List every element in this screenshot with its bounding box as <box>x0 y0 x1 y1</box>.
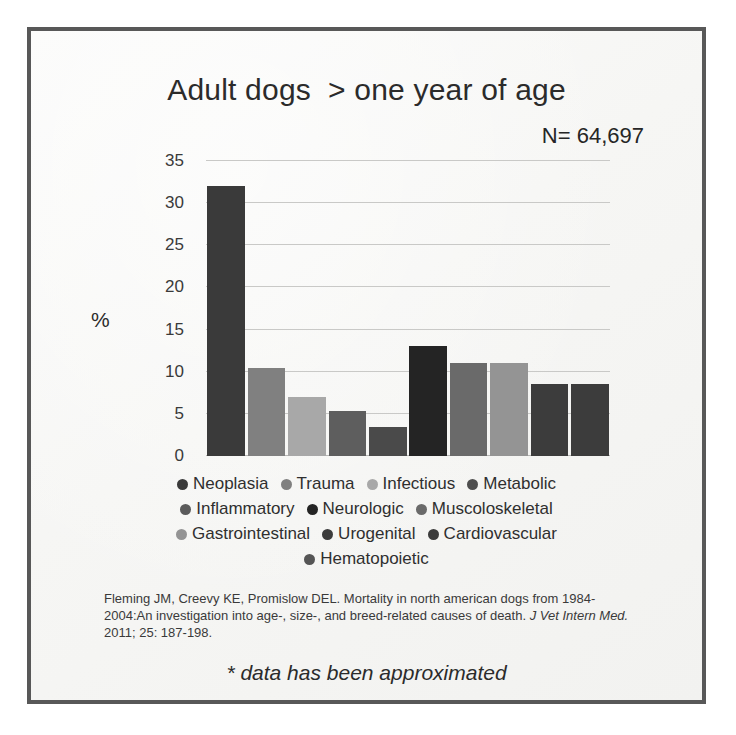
y-axis-title: % <box>91 308 110 332</box>
legend-swatch-icon <box>180 504 191 515</box>
bar-infectious <box>288 397 326 456</box>
legend-label: Neoplasia <box>193 474 269 493</box>
slide-canvas: Adult dogs > one year of age N= 64,697 %… <box>0 0 736 735</box>
legend-label: Trauma <box>297 474 355 493</box>
legend-swatch-icon <box>281 479 292 490</box>
bar-muscoloskeletal <box>450 363 488 456</box>
chart-title: Adult dogs > one year of age <box>31 73 702 107</box>
bar-series <box>206 161 610 456</box>
legend-row-2: InflammatoryNeurologicMuscoloskeletal <box>31 496 702 521</box>
chart-container: Adult dogs > one year of age N= 64,697 %… <box>31 31 702 700</box>
legend-swatch-icon <box>428 529 439 540</box>
y-tick-label-5: 5 <box>175 404 184 424</box>
legend-swatch-icon <box>304 554 315 565</box>
legend-swatch-icon <box>307 504 318 515</box>
y-tick-label-10: 10 <box>165 362 184 382</box>
legend-label: Gastrointestinal <box>192 524 310 543</box>
bar-gastrointestinal <box>490 363 528 456</box>
legend-label: Neurologic <box>323 499 404 518</box>
y-tick-label-35: 35 <box>165 151 184 171</box>
legend-label: Metabolic <box>483 474 556 493</box>
legend-swatch-icon <box>322 529 333 540</box>
citation-line-3-tail: 2011; 25: 187-198. <box>104 625 212 640</box>
legend-row-3: GastrointestinalUrogenitalCardiovascular <box>31 521 702 546</box>
legend-label: Infectious <box>383 474 456 493</box>
citation-text: Fleming JM, Creevy KE, Promislow DEL. Mo… <box>104 590 639 641</box>
bar-urogenital <box>531 384 569 456</box>
bar-trauma <box>248 368 286 456</box>
legend-swatch-icon <box>467 479 478 490</box>
legend-item-muscoloskeletal[interactable]: Muscoloskeletal <box>416 496 553 521</box>
legend-label: Muscoloskeletal <box>432 499 553 518</box>
legend-item-urogenital[interactable]: Urogenital <box>322 521 416 546</box>
legend-swatch-icon <box>367 479 378 490</box>
bar-neurologic <box>409 346 447 456</box>
plot-area: 05101520253035 <box>206 161 610 456</box>
citation-journal-initial: J <box>530 608 537 623</box>
legend-item-inflammatory[interactable]: Inflammatory <box>180 496 294 521</box>
legend-label: Cardiovascular <box>444 524 557 543</box>
legend-item-metabolic[interactable]: Metabolic <box>467 471 556 496</box>
citation-journal: Vet Intern Med. <box>540 608 628 623</box>
y-tick-label-30: 30 <box>165 193 184 213</box>
bar-metabolic <box>329 411 367 457</box>
legend-swatch-icon <box>416 504 427 515</box>
legend-label: Urogenital <box>338 524 416 543</box>
legend-swatch-icon <box>176 529 187 540</box>
legend-item-gastrointestinal[interactable]: Gastrointestinal <box>176 521 310 546</box>
bar-inflammatory <box>369 427 407 456</box>
legend-item-hematopoietic[interactable]: Hematopoietic <box>304 546 429 571</box>
citation-line-1: Fleming JM, Creevy KE, Promislow DEL. Mo… <box>104 591 558 606</box>
legend-item-infectious[interactable]: Infectious <box>367 471 456 496</box>
bar-cardiovascular <box>571 384 609 456</box>
slide-frame: Adult dogs > one year of age N= 64,697 %… <box>27 27 706 704</box>
approximation-footnote: * data has been approximated <box>31 661 702 685</box>
y-tick-label-0: 0 <box>175 446 184 466</box>
chart-legend: NeoplasiaTraumaInfectiousMetabolicInflam… <box>31 471 702 571</box>
legend-row-1: NeoplasiaTraumaInfectiousMetabolic <box>31 471 702 496</box>
legend-item-trauma[interactable]: Trauma <box>281 471 355 496</box>
sample-size-label: N= 64,697 <box>542 123 644 149</box>
legend-label: Inflammatory <box>196 499 294 518</box>
legend-item-cardiovascular[interactable]: Cardiovascular <box>428 521 557 546</box>
bar-neoplasia <box>207 186 245 456</box>
legend-swatch-icon <box>177 479 188 490</box>
legend-label: Hematopoietic <box>320 549 429 568</box>
y-tick-label-15: 15 <box>165 320 184 340</box>
legend-row-4: Hematopoietic <box>31 546 702 571</box>
y-tick-label-20: 20 <box>165 277 184 297</box>
legend-item-neoplasia[interactable]: Neoplasia <box>177 471 269 496</box>
legend-item-neurologic[interactable]: Neurologic <box>307 496 404 521</box>
y-tick-label-25: 25 <box>165 235 184 255</box>
